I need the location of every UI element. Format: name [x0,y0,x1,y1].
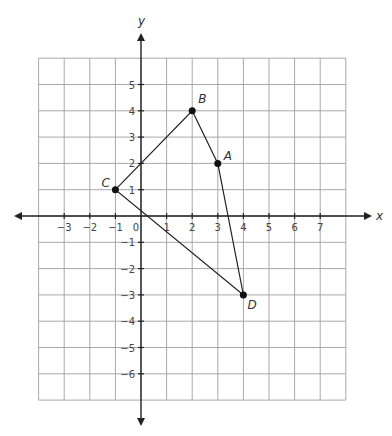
vertex-d [240,291,247,298]
vertex-c [112,186,119,193]
vertex-a [214,160,221,167]
y-tick-label: −2 [120,264,135,275]
x-axis-left-arrow-icon [14,212,22,220]
x-tick-label: −3 [57,222,72,233]
x-tick-label: 3 [215,222,221,233]
y-tick-label: 4 [129,106,135,117]
vertex-label-d: D [247,298,256,312]
y-tick-label: −1 [120,237,135,248]
vertex-b [189,107,196,114]
x-tick-label: 0 [133,222,139,233]
y-tick-label: −6 [120,369,135,380]
y-tick-label: 1 [129,185,135,196]
y-tick-label: −4 [120,316,135,327]
tick-labels: −3−2−10123456754321−1−2−3−4−5−6 [57,80,324,380]
vertex-label-b: B [198,92,206,106]
y-tick-label: 5 [129,80,135,91]
x-tick-label: 2 [189,222,195,233]
vertex-label-c: C [101,176,110,190]
y-tick-label: −3 [120,290,135,301]
x-tick-label: 6 [291,222,297,233]
x-axis-right-arrow-icon [364,212,372,220]
y-tick-label: 2 [129,158,135,169]
y-axis-up-arrow-icon [137,33,145,41]
vertex-label-a: A [223,149,232,163]
y-axis-down-arrow-icon [137,418,145,426]
coordinate-plane: −3−2−10123456754321−1−2−3−4−5−6 ABCD x y [0,0,392,436]
x-tick-label: 4 [240,222,246,233]
y-tick-label: −5 [120,343,135,354]
x-tick-label: 5 [266,222,272,233]
x-tick-label: 7 [317,222,323,233]
x-axis-label: x [375,209,384,223]
x-tick-label: −1 [108,222,123,233]
x-tick-label: −2 [82,222,97,233]
y-tick-label: 3 [129,132,135,143]
y-axis-label: y [137,14,146,28]
